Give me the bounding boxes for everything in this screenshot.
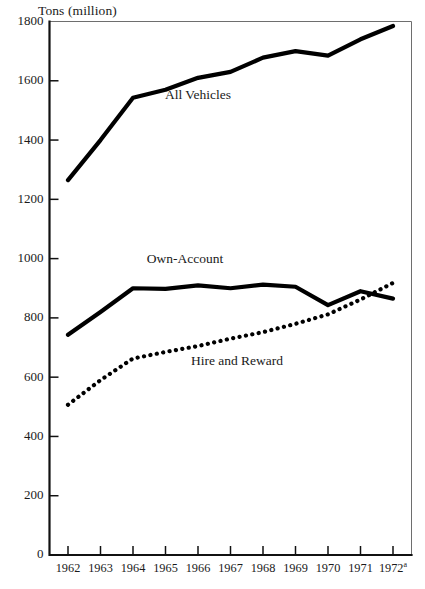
- y-axis-tick-label: 1200: [18, 191, 44, 206]
- y-axis-ticks: [50, 81, 59, 555]
- x-axis-tick-label: 1969: [283, 561, 308, 575]
- x-axis-tick-label: 1967: [218, 561, 243, 575]
- data-series-group: [68, 26, 393, 405]
- y-axis-tick-label: 400: [24, 428, 44, 443]
- x-axis-tick-label: 1971: [348, 561, 373, 575]
- x-axis-ticks: [68, 546, 393, 555]
- x-axis-tick-label: 1970: [316, 561, 341, 575]
- x-axis-tick-label: 1965: [153, 561, 178, 575]
- y-axis-tick-label: 0: [37, 546, 44, 561]
- y-axis-tick-label: 1000: [18, 250, 44, 265]
- x-axis-tick-label: 1964: [121, 561, 146, 575]
- y-axis-tick-labels: 020040060080010001200140016001800: [18, 13, 44, 562]
- series-line-own-account: [68, 285, 393, 335]
- series-label-own-account: Own-Account: [147, 251, 224, 266]
- series-line-all-vehicles: [68, 26, 393, 180]
- y-axis-tick-label: 200: [24, 487, 44, 502]
- series-label-all-vehicles: All Vehicles: [165, 87, 231, 102]
- x-axis-tick-label: 1963: [88, 561, 113, 575]
- y-axis-tick-label: 1600: [18, 72, 44, 87]
- x-axis-tick-labels: 1962196319641965196619671968196919701971…: [56, 560, 408, 575]
- y-axis-tick-label: 600: [24, 369, 44, 384]
- x-axis-tick-label: 1966: [186, 561, 211, 575]
- chart-figure: Tons (million) 0200400600800100012001400…: [0, 0, 425, 589]
- line-chart-plot: 020040060080010001200140016001800 196219…: [0, 0, 425, 589]
- x-axis-tick-label: 1972a: [379, 560, 408, 575]
- y-axis-tick-label: 1400: [18, 132, 44, 147]
- x-axis-tick-label: 1962: [56, 561, 81, 575]
- x-axis-tick-label: 1968: [251, 561, 276, 575]
- series-label-hire-and-reward: Hire and Reward: [191, 353, 283, 368]
- y-axis-tick-label: 1800: [18, 13, 44, 28]
- series-annotations: All VehiclesOwn-AccountHire and Reward: [147, 87, 284, 369]
- y-axis-tick-label: 800: [24, 309, 44, 324]
